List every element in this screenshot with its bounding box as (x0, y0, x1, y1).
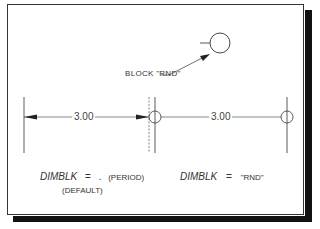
left-caption: DIMBLK = . (PERIOD) (40, 171, 144, 182)
right-dimension (149, 97, 293, 153)
right-caption-var: DIMBLK (180, 171, 217, 182)
left-dimension-text: 3.00 (72, 112, 95, 122)
arrowhead-right-icon (136, 115, 149, 120)
arrowhead-left-icon (24, 115, 37, 120)
right-caption-value: "RND" (241, 173, 264, 182)
left-dimension (24, 97, 149, 153)
right-dimension-text: 3.00 (209, 112, 232, 122)
left-caption-default: (DEFAULT) (62, 186, 103, 195)
left-caption-eq: = (85, 171, 91, 182)
left-caption-var: DIMBLK (40, 171, 77, 182)
left-caption-note: (PERIOD) (108, 173, 144, 182)
dimension-drawing (0, 0, 320, 229)
right-caption-eq: = (226, 171, 232, 182)
leader-arrowhead-icon (200, 54, 210, 61)
right-caption: DIMBLK = "RND" (180, 171, 264, 182)
block-rnd-symbol (200, 33, 230, 53)
block-rnd-label: BLOCK "RND" (125, 69, 181, 78)
left-caption-value: . (99, 171, 102, 182)
